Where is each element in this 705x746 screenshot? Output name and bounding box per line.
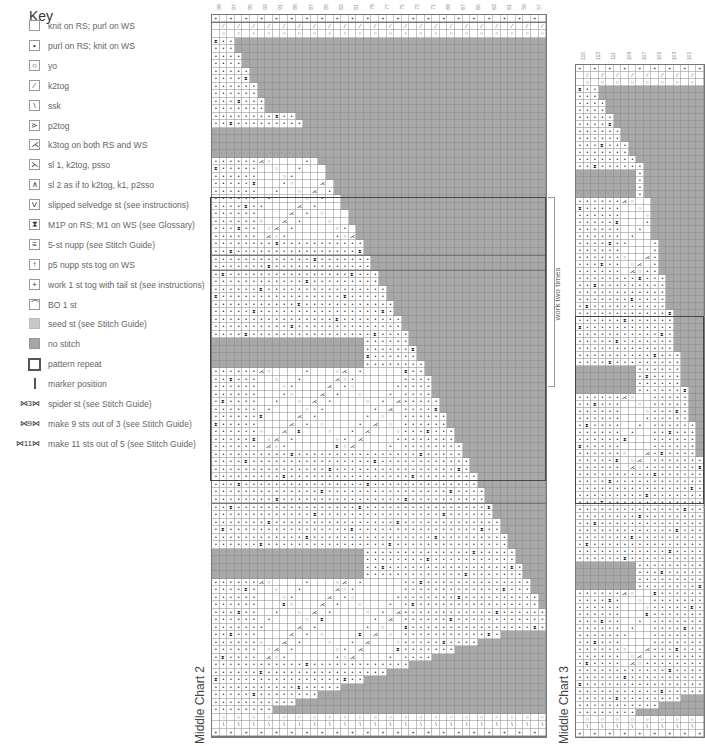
chart-cell [523, 256, 531, 263]
chart-cell: • [242, 601, 250, 608]
chart-cell [341, 203, 349, 210]
chart-cell: • [288, 691, 296, 698]
chart-cell [493, 180, 501, 187]
chart-cell: • [463, 594, 471, 601]
chart-cell [326, 706, 334, 713]
chart-cell: • [220, 443, 228, 450]
chart-cell [349, 38, 357, 45]
chart-cell [235, 15, 243, 22]
chart-cell [463, 413, 471, 420]
chart-cell [273, 564, 281, 571]
chart-cell [539, 173, 547, 180]
chart-cell [334, 549, 342, 556]
chart-cell [440, 113, 448, 120]
chart-cell: • [402, 466, 410, 473]
chart-cell [478, 150, 486, 157]
chart-cell [463, 38, 471, 45]
chart-cell [501, 210, 509, 217]
chart-cell [501, 240, 509, 247]
chart-cell: • [432, 616, 440, 623]
chart-cell [478, 473, 486, 480]
chart-cell [273, 210, 281, 217]
chart-cell: • [371, 661, 379, 668]
chart-cell [470, 466, 478, 473]
chart-cell: • [440, 504, 448, 511]
chart-cell: • [235, 706, 243, 713]
chart-cell [463, 654, 471, 661]
chart-cell: • [326, 308, 334, 315]
chart-cell [326, 691, 334, 698]
chart-cell [349, 721, 357, 728]
chart-cell [531, 571, 539, 578]
chart-cell [440, 323, 448, 330]
chart-cell: • [265, 669, 273, 676]
chart-cell [220, 729, 228, 736]
chart-cell: • [220, 83, 228, 90]
chart-cell: • [212, 631, 220, 638]
chart-cell: ○ [296, 609, 304, 616]
chart-cell: • [303, 210, 311, 217]
chart-cell [432, 45, 440, 52]
chart-cell [478, 271, 486, 278]
chart-cell [455, 654, 463, 661]
chart-cell: • [447, 458, 455, 465]
chart-cell: • [303, 421, 311, 428]
chart-cell: ⧗ [242, 75, 250, 82]
chart-cell: • [258, 248, 266, 255]
chart-cell [394, 368, 402, 375]
chart-cell: • [501, 616, 509, 623]
chart-cell: • [409, 451, 417, 458]
key-item: ⋈9⋈make 9 sts out of 3 (see Stitch Guide… [0, 418, 230, 432]
chart-cell [235, 564, 243, 571]
chart-cell [318, 398, 326, 405]
chart-cell [417, 98, 425, 105]
chart-cell: • [212, 646, 220, 653]
chart-cell [303, 428, 311, 435]
chart-cell: • [387, 504, 395, 511]
chart-cell [523, 436, 531, 443]
chart-cell: • [432, 541, 440, 548]
chart-cell [455, 308, 463, 315]
chart-cell [440, 654, 448, 661]
chart-cell [508, 173, 516, 180]
chart-cell [440, 271, 448, 278]
chart-cell: ⧗ [235, 481, 243, 488]
chart-cell [493, 504, 501, 511]
chart-cell: • [334, 669, 342, 676]
chart-cell [258, 398, 266, 405]
chart-cell [432, 331, 440, 338]
chart-cell [364, 30, 372, 37]
chart-cell [470, 706, 478, 713]
chart-cell: • [463, 511, 471, 518]
chart-cell [447, 331, 455, 338]
key-item: ≡5-st nupp (see Stitch Guide) [0, 239, 230, 253]
chart-cell [349, 23, 357, 30]
chart-cell: • [235, 458, 243, 465]
chart-cell: ○ [280, 30, 288, 37]
chart-cell [425, 30, 433, 37]
chart-cell: • [432, 473, 440, 480]
chart-cell [455, 323, 463, 330]
chart-cell: • [455, 624, 463, 631]
chart-cell: + [379, 729, 387, 736]
chart-cell: • [235, 331, 243, 338]
chart-cell: • [417, 571, 425, 578]
chart-cell [394, 203, 402, 210]
chart-cell: • [501, 624, 509, 631]
chart-cell: • [273, 263, 281, 270]
chart-cell [539, 421, 547, 428]
chart-cell [531, 120, 539, 127]
chart-cell [409, 308, 417, 315]
chart-cell: ⧗ [288, 323, 296, 330]
chart-cell: • [455, 586, 463, 593]
chart-cell: • [501, 594, 509, 601]
chart-cell: ⧗ [455, 466, 463, 473]
chart-cell: \ [356, 721, 364, 728]
chart-cell [250, 549, 258, 556]
chart-cell: • [364, 458, 372, 465]
chart-cell [334, 346, 342, 353]
chart-cell [242, 564, 250, 571]
chart-cell [280, 135, 288, 142]
chart-cell: • [220, 60, 228, 67]
chart-cell [470, 225, 478, 232]
